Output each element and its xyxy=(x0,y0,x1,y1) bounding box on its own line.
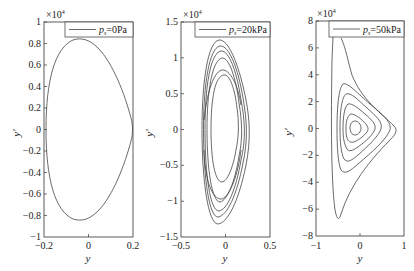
y-tick: 0 xyxy=(36,124,41,135)
legend-label: ps=20kPa xyxy=(228,24,268,36)
y-tick: 1.5 xyxy=(166,16,179,27)
y-tick: −0.4 xyxy=(23,167,41,178)
y-tick: 0.6 xyxy=(29,59,42,70)
orbit-curves xyxy=(202,40,249,224)
panel-1: 1 0.8 0.6 0.4 0.2 0 −0.2 −0.4 −0.6 −0.8 … xyxy=(10,9,139,264)
y-tick: 6 xyxy=(308,42,313,53)
x-tick: −0.5 xyxy=(172,240,190,251)
y-axis-label: y' xyxy=(10,129,22,138)
x-tick: 1 xyxy=(402,240,407,251)
y-tick: −0.5 xyxy=(160,159,178,170)
x-tick: 0 xyxy=(86,240,91,251)
panel-2: 1.5 1 0.5 0 −0.5 −1 −1.5 −0.5 0 0.5 y y'… xyxy=(143,9,276,264)
y-tick: 0 xyxy=(173,124,178,135)
x-axis-label: y xyxy=(222,252,228,264)
y-axis-label: y' xyxy=(282,128,294,137)
x-tick: −1 xyxy=(311,240,322,251)
x-tick: 0 xyxy=(223,240,228,251)
orbit-curve xyxy=(46,39,133,220)
legend-label: ps=0Pa xyxy=(98,24,128,36)
axes-box xyxy=(316,21,404,236)
y-tick: 0 xyxy=(308,123,313,134)
y-tick: −6 xyxy=(302,203,313,214)
axes-box xyxy=(44,22,133,237)
x-tick: 0 xyxy=(358,240,363,251)
y-tick: 0.8 xyxy=(29,38,42,49)
y-tick: 2 xyxy=(308,96,313,107)
orbit-curves xyxy=(331,37,396,219)
scale-factor: ×104 xyxy=(46,9,65,20)
x-tick: 0.2 xyxy=(127,240,140,251)
legend-label: ps=50kPa xyxy=(362,24,402,36)
panel-3: 8 6 4 2 0 −2 −4 −6 −8 −1 0 1 y y' ×104 p… xyxy=(282,8,407,264)
y-axis-label: y' xyxy=(143,129,155,138)
y-tick: 8 xyxy=(308,15,313,26)
x-axis-label: y xyxy=(85,252,91,264)
axes-box xyxy=(181,22,270,237)
x-tick: 0.5 xyxy=(264,240,277,251)
y-tick: −1 xyxy=(167,195,178,206)
y-tick: −0.6 xyxy=(23,188,41,199)
y-tick: 0.2 xyxy=(29,102,42,113)
y-tick: 0.5 xyxy=(166,88,179,99)
x-axis-label: y xyxy=(357,252,363,264)
y-tick: 1 xyxy=(36,16,41,27)
y-tick: 4 xyxy=(308,69,313,80)
y-tick: 0.4 xyxy=(29,81,42,92)
y-tick: −0.2 xyxy=(23,145,41,156)
scale-factor: ×104 xyxy=(183,9,202,20)
x-tick: −0.2 xyxy=(35,240,53,251)
scale-factor: ×104 xyxy=(317,8,336,19)
y-tick: 1 xyxy=(173,52,178,63)
y-tick: −2 xyxy=(302,149,313,160)
figure: 1 0.8 0.6 0.4 0.2 0 −0.2 −0.4 −0.6 −0.8 … xyxy=(0,0,414,271)
y-tick: −4 xyxy=(302,176,313,187)
y-tick: −0.8 xyxy=(23,210,41,221)
